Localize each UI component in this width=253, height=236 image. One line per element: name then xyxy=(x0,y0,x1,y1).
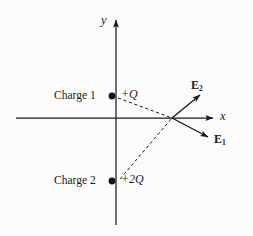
charge-2-name: Charge 2 xyxy=(54,175,96,187)
vector-e1 xyxy=(172,118,208,137)
diagram-canvas xyxy=(0,0,253,236)
electric-field-diagram: y x Charge 1 +Q Charge 2 +2Q E2 E1 xyxy=(0,0,253,236)
vector-e2-label: E2 xyxy=(191,79,203,91)
vector-e2-symbol: E xyxy=(191,78,199,92)
x-axis-label: x xyxy=(220,110,226,123)
vector-e1-label: E1 xyxy=(214,133,226,145)
charge-point-2 xyxy=(109,178,116,185)
charge-point-1 xyxy=(109,93,116,100)
charge-1-name: Charge 1 xyxy=(54,90,96,102)
charge-2-value: +2Q xyxy=(121,173,144,185)
charge-1-value: +Q xyxy=(121,88,138,100)
y-axis-label: y xyxy=(101,14,107,27)
dashed-line-charge-2 xyxy=(120,118,172,179)
vector-e1-subscript: 1 xyxy=(222,138,226,147)
dashed-line-charge-1 xyxy=(118,98,172,118)
vector-e2-subscript: 2 xyxy=(199,84,203,93)
vector-e2 xyxy=(172,95,200,118)
vector-e1-symbol: E xyxy=(214,132,222,146)
